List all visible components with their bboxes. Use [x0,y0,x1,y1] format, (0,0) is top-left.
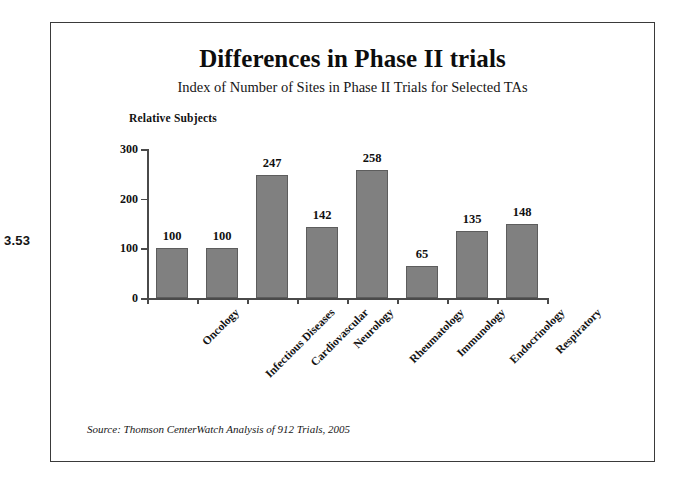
y-tick-label: 300 [120,142,138,157]
y-tick-mark [141,199,147,201]
bar-value-label: 247 [263,156,282,171]
x-tick-mark [397,298,399,304]
category-label: Rheumatology [407,306,466,365]
y-tick-mark [141,149,147,151]
x-tick-mark [297,298,299,304]
y-tick-mark [141,248,147,250]
bar-value-label: 148 [513,205,532,220]
x-tick-mark [247,298,249,304]
category-label: Oncology [200,306,241,347]
bar [406,266,438,298]
x-tick-mark [547,298,549,304]
bar-value-label: 258 [363,151,382,166]
bar-value-label: 65 [416,247,429,262]
y-tick-label: 200 [120,191,138,206]
x-tick-mark [447,298,449,304]
bar [156,248,188,298]
category-label: Endocrinology [507,306,567,366]
source-note: Source: Thomson CenterWatch Analysis of … [87,423,350,435]
plot-area: 0100200300 10010024714225865135148 Oncol… [147,149,547,298]
bar-value-label: 100 [213,229,232,244]
chart-subtitle: Index of Number of Sites in Phase II Tri… [51,79,654,96]
bar [356,170,388,298]
x-tick-mark [347,298,349,304]
bar [506,224,538,298]
y-axis-line [147,149,149,298]
bar [256,175,288,298]
chart-title: Differences in Phase II trials [51,45,654,73]
bar [206,248,238,298]
x-tick-mark [497,298,499,304]
y-tick-label: 0 [132,291,138,306]
chart-frame: Differences in Phase II trials Index of … [50,22,655,462]
bar-value-label: 135 [463,212,482,227]
figure-number: 3.53 [4,233,30,248]
x-tick-mark [147,298,149,304]
y-axis-title: Relative Subjects [129,112,217,124]
x-tick-mark [197,298,199,304]
bar-value-label: 142 [313,208,332,223]
y-tick-label: 100 [120,241,138,256]
bar [306,227,338,298]
bar [456,231,488,298]
bar-value-label: 100 [163,229,182,244]
